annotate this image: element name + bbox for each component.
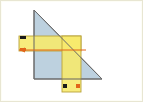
tick-bottom-left-orange — [20, 48, 26, 51]
geometry-canvas — [0, 0, 143, 102]
vertical-yellow-band — [62, 36, 81, 92]
tick-bottom-rect-right-orange — [76, 84, 80, 88]
tick-top-left-black — [20, 36, 26, 39]
tick-bottom-rect-left-black — [63, 84, 67, 88]
figure-container — [0, 0, 143, 102]
